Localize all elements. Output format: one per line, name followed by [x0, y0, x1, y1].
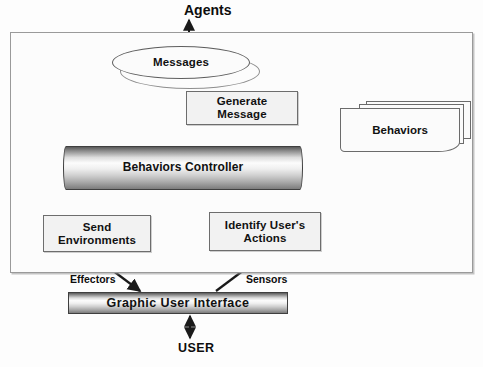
node-identify-user-actions[interactable]: Identify User's Actions — [209, 212, 321, 251]
user-label: USER — [178, 341, 214, 355]
send-environments-line-1: Send — [58, 221, 136, 234]
identify-actions-line-1: Identify User's — [225, 219, 305, 232]
effectors-label: Effectors — [70, 273, 116, 285]
node-send-environments[interactable]: Send Environments — [43, 215, 151, 252]
identify-actions-line-2: Actions — [225, 232, 305, 245]
generate-message-line-1: Generate — [217, 95, 268, 108]
node-behaviors-stack[interactable]: Behaviors — [340, 101, 475, 155]
node-generate-message[interactable]: Generate Message — [186, 91, 298, 125]
send-environments-line-2: Environments — [58, 234, 136, 247]
agents-label: Agents — [184, 2, 231, 18]
diagram-canvas: Agents Messages Generate Message Behavio… — [0, 0, 483, 367]
behaviors-card-front[interactable]: Behaviors — [340, 108, 460, 152]
sensors-label: Sensors — [246, 273, 287, 285]
node-messages[interactable]: Messages — [112, 46, 250, 79]
node-graphic-user-interface[interactable]: Graphic User Interface — [68, 292, 288, 314]
behaviors-label: Behaviors — [372, 124, 428, 136]
generate-message-line-2: Message — [217, 108, 268, 121]
node-behaviors-controller[interactable]: Behaviors Controller — [63, 146, 303, 190]
